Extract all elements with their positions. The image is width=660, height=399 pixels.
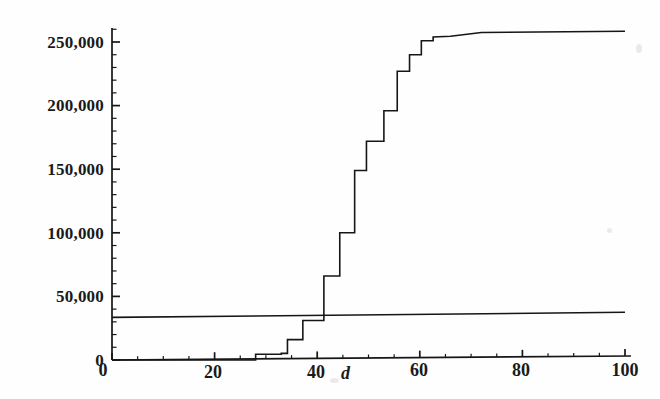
chart-plot-area [0,0,660,399]
y-tick-label-250000: 250,000 [17,33,104,53]
x-tick-label-100: 100 [602,360,648,381]
x-tick-label-80: 80 [504,360,538,381]
y-tick-label-150000: 150,000 [17,160,104,180]
scan-speck [607,228,612,233]
x-tick-label-60: 60 [402,360,436,381]
y-tick-label-200000: 200,000 [17,96,104,116]
y-tick-label-50000: 50,000 [28,287,104,307]
x-tick-label-0: 0 [93,360,113,381]
x-axis-title: d [341,363,350,384]
y-tick-label-100000: 100,000 [17,224,104,244]
x-tick-label-40: 40 [299,362,333,383]
series-reference-line [112,312,625,317]
series-cumulative-step-curve [112,31,625,360]
figure-canvas: 0 50,000 100,000 150,000 200,000 250,000… [0,0,660,399]
scan-speck [636,44,642,53]
scan-speck [330,378,339,383]
x-tick-label-20: 20 [196,362,230,383]
